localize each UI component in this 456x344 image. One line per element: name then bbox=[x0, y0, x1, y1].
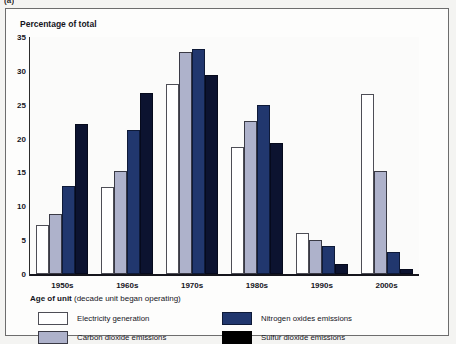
bar-group-2000s: 2000s bbox=[361, 37, 413, 274]
bar[interactable] bbox=[244, 121, 257, 274]
x-axis-tick-label: 1960s bbox=[116, 281, 138, 290]
chart-frame: Percentage of total 05101520253035 1950s… bbox=[5, 8, 449, 336]
bar[interactable] bbox=[166, 84, 179, 274]
y-axis-tick-label: 20 bbox=[17, 134, 26, 143]
y-axis-tick-label: 10 bbox=[17, 202, 26, 211]
y-axis-tick-label: 0 bbox=[22, 270, 26, 279]
bars bbox=[101, 37, 153, 274]
legend-item[interactable]: Carbon dioxide emissions bbox=[38, 328, 208, 344]
bars bbox=[296, 37, 348, 274]
x-axis-title-detail: (decade unit began operating) bbox=[72, 294, 181, 303]
bar[interactable] bbox=[179, 52, 192, 274]
y-axis-line bbox=[29, 37, 30, 276]
bar[interactable] bbox=[296, 233, 309, 274]
figure-label: (a) bbox=[4, 0, 14, 5]
bar[interactable] bbox=[49, 214, 62, 274]
legend-label: Electricity generation bbox=[77, 314, 149, 323]
bar[interactable] bbox=[192, 49, 205, 274]
bar[interactable] bbox=[270, 143, 283, 274]
bar[interactable] bbox=[257, 105, 270, 274]
legend-label: Nitrogen oxides emissions bbox=[261, 314, 352, 323]
legend-swatch-icon bbox=[38, 331, 68, 344]
legend-swatch-icon bbox=[38, 312, 68, 325]
bar-group-1960s: 1960s bbox=[101, 37, 153, 274]
bar[interactable] bbox=[335, 264, 348, 274]
bar[interactable] bbox=[400, 269, 413, 274]
y-axis-tick-label: 35 bbox=[17, 33, 26, 42]
bar[interactable] bbox=[62, 186, 75, 274]
y-axis-tick-label: 15 bbox=[17, 168, 26, 177]
legend-item[interactable]: Electricity generation bbox=[38, 309, 208, 328]
legend-label: Sulfur dioxide emissions bbox=[261, 333, 345, 342]
y-axis-tick-label: 25 bbox=[17, 100, 26, 109]
legend-swatch-icon bbox=[222, 331, 252, 344]
bar-group-1990s: 1990s bbox=[296, 37, 348, 274]
bar[interactable] bbox=[361, 94, 374, 274]
plot-area: 05101520253035 1950s1960s1970s1980s1990s… bbox=[30, 37, 419, 274]
bars bbox=[231, 37, 283, 274]
bar-group-1980s: 1980s bbox=[231, 37, 283, 274]
bars bbox=[361, 37, 413, 274]
x-axis-tick-label: 2000s bbox=[375, 281, 397, 290]
bar-group-1970s: 1970s bbox=[166, 37, 218, 274]
bar[interactable] bbox=[322, 246, 335, 274]
x-axis-tick-label: 1980s bbox=[246, 281, 268, 290]
legend-swatch-icon bbox=[222, 312, 252, 325]
chart-legend: Electricity generationNitrogen oxides em… bbox=[38, 309, 418, 344]
bar[interactable] bbox=[114, 171, 127, 274]
x-axis-title-bold: Age of unit bbox=[30, 294, 72, 303]
bar[interactable] bbox=[140, 93, 153, 274]
y-axis-tick-label: 30 bbox=[17, 66, 26, 75]
y-axis-tick-label: 5 bbox=[22, 236, 26, 245]
x-axis-tick-label: 1950s bbox=[51, 281, 73, 290]
bar[interactable] bbox=[36, 225, 49, 274]
bar[interactable] bbox=[205, 75, 218, 274]
bar[interactable] bbox=[231, 147, 244, 274]
legend-item[interactable]: Sulfur dioxide emissions bbox=[222, 328, 392, 344]
y-axis-title: Percentage of total bbox=[20, 19, 97, 29]
bar[interactable] bbox=[309, 240, 322, 274]
legend-label: Carbon dioxide emissions bbox=[77, 333, 166, 342]
x-axis-tick-label: 1970s bbox=[181, 281, 203, 290]
bars bbox=[36, 37, 88, 274]
x-axis-line bbox=[30, 274, 419, 276]
bar[interactable] bbox=[101, 187, 114, 274]
legend-item[interactable]: Nitrogen oxides emissions bbox=[222, 309, 392, 328]
bar-group-1950s: 1950s bbox=[36, 37, 88, 274]
figure-root: (a) Percentage of total 05101520253035 1… bbox=[0, 0, 456, 344]
bar[interactable] bbox=[387, 252, 400, 274]
x-axis-tick-label: 1990s bbox=[311, 281, 333, 290]
x-axis-title: Age of unit (decade unit began operating… bbox=[30, 294, 181, 303]
bars bbox=[166, 37, 218, 274]
bar[interactable] bbox=[127, 130, 140, 274]
bar[interactable] bbox=[75, 124, 88, 274]
bar[interactable] bbox=[374, 171, 387, 274]
